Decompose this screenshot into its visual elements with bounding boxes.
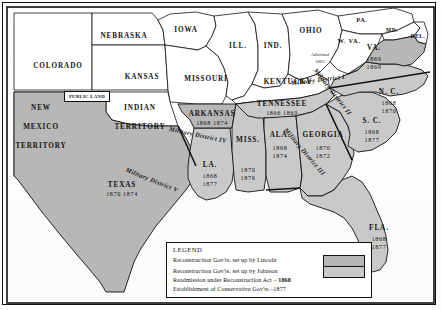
state-label-ind: IND. [264, 42, 283, 50]
state-label-fla: FLA. [369, 224, 389, 232]
state-colorado [14, 13, 92, 90]
state-dates-texas: 1870 1874 [106, 190, 138, 197]
state-label-arkansas: ARKANSAS [189, 110, 236, 118]
territory-label-indian-line1: INDIAN [124, 104, 156, 112]
state-label-iowa: IOWA [174, 26, 198, 34]
state-label-la: LA. [203, 161, 217, 169]
state-readmission-year-la: 1868 [203, 172, 218, 179]
legend-line-lincoln: Reconstruction Gov'ts. set up by Lincoln [173, 257, 277, 263]
territory-label-new-line1: NEW [31, 104, 51, 112]
state-label-colorado: COLORADO [33, 62, 83, 70]
territory-label-new-line2: MEXICO [23, 123, 59, 131]
state-label-s-c: S. C. [362, 117, 381, 125]
west-virginia-admitted-note-line1: Admitted [311, 52, 329, 57]
state-kansas [92, 45, 168, 90]
state-conservative-year-va: 1869 [367, 63, 382, 70]
state-conservative-year-georgia: 1872 [316, 152, 331, 159]
public-land-label: PUBLIC LAND [64, 91, 110, 102]
state-readmission-year-n-c: 1868 [382, 99, 397, 106]
state-label-va: VA. [367, 44, 381, 52]
reconstruction-map: COLORADONEBRASKAKANSASIOWAMISSOURIILL.IN… [0, 0, 441, 310]
state-dates-tennessee: 1866 1869 [266, 109, 298, 116]
state-conservative-year-ala: 1874 [273, 152, 288, 159]
state-conservative-year-n-c: 1870 [382, 107, 397, 114]
state-label-missouri: MISSOURI [184, 75, 228, 83]
state-label-md: MD. [386, 27, 398, 33]
legend-box: LEGEND Reconstruction Gov'ts. set up by … [166, 242, 372, 298]
legend-readmission-text: Readmission under Reconstruction Act – [173, 277, 278, 283]
state-readmission-year-va: 1869 [367, 55, 382, 62]
west-virginia-admitted-note-line2: 1863 [315, 59, 325, 64]
state-conservative-year-la: 1877 [203, 180, 218, 187]
state-label-pa: PA. [356, 16, 368, 23]
state-label-ill: ILL. [229, 42, 247, 50]
legend-line-readmission: Readmission under Reconstruction Act – 1… [173, 277, 291, 283]
state-nebraska [92, 13, 165, 45]
legend-readmission-year: 1868 [278, 277, 291, 283]
legend-line-johnson: Reconstruction Gov'ts. set up by Johnson [173, 268, 278, 274]
legend-swatch-johnson [323, 266, 365, 278]
state-label-georgia: GEORGIA [302, 131, 343, 139]
state-conservative-year-miss: 1876 [241, 174, 256, 181]
state-readmission-year-ala: 1868 [273, 144, 288, 151]
state-conservative-year-fla: 1877 [372, 243, 387, 250]
state-dates-arkansas: 1868 1874 [196, 119, 228, 126]
state-readmission-year-fla: 1868 [372, 235, 387, 242]
territory-label-new-line3: TERRITORY [15, 142, 66, 150]
state-label-nebraska: NEBRASKA [100, 32, 147, 40]
state-label-ohio: OHIO [299, 27, 322, 35]
state-conservative-year-s-c: 1877 [365, 136, 380, 143]
state-label-del: DEL. [411, 33, 426, 39]
state-readmission-year-miss: 1870 [241, 166, 256, 173]
state-label-w-va: W. VA. [338, 37, 361, 44]
state-label-tennessee: TENNESSEE [257, 100, 307, 108]
legend-line-conservative: Establishment of Conservative Gov'ts.–18… [173, 286, 286, 292]
state-label-n-c: N. C. [379, 88, 399, 96]
state-label-texas: TEXAS [108, 181, 136, 189]
state-label-kansas: KANSAS [125, 73, 160, 81]
state-label-miss: MISS. [236, 136, 260, 144]
legend-title: LEGEND [173, 246, 202, 253]
state-readmission-year-georgia: 1870 [316, 144, 331, 151]
territory-label-indian-line2: TERRITORY [114, 123, 165, 131]
state-readmission-year-s-c: 1868 [365, 128, 380, 135]
